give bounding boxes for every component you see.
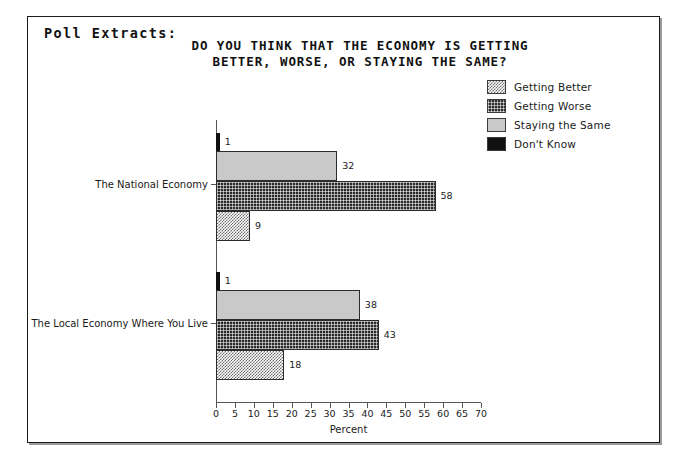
bar-dontknow[interactable]: [216, 133, 220, 151]
legend-label-dont-know: Don't Know: [514, 138, 576, 150]
chart-legend: Getting Better Getting Worse Staying the…: [487, 78, 611, 154]
x-axis-tick-label: 10: [248, 408, 260, 419]
x-axis-tick-label: 40: [361, 408, 373, 419]
bar-dontknow[interactable]: [216, 272, 220, 290]
x-axis-tick-label: 20: [286, 408, 298, 419]
legend-label-staying-the-same: Staying the Same: [514, 119, 611, 131]
bar-same[interactable]: [216, 151, 337, 181]
legend-item-dont-know[interactable]: Don't Know: [487, 135, 611, 153]
chart-title-line-1: DO YOU THINK THAT THE ECONOMY IS GETTING: [150, 38, 570, 54]
x-axis-tick-label: 70: [475, 408, 487, 419]
legend-label-getting-worse: Getting Worse: [514, 100, 591, 112]
bar-same[interactable]: [216, 290, 360, 320]
bar-value-label: 43: [384, 329, 396, 340]
legend-label-getting-better: Getting Better: [514, 81, 592, 93]
page-canvas: Poll Extracts: DO YOU THINK THAT THE ECO…: [0, 0, 688, 467]
bar-value-label: 9: [255, 220, 261, 231]
legend-swatch-staying-the-same: [487, 118, 506, 132]
x-axis-tick-label: 45: [380, 408, 392, 419]
bar-value-label: 1: [225, 136, 231, 147]
x-axis-tick-label: 15: [267, 408, 279, 419]
legend-swatch-getting-worse: [487, 99, 506, 113]
bar-better[interactable]: [216, 211, 250, 241]
x-axis-tick-label: 35: [342, 408, 354, 419]
x-axis-tick-label: 5: [232, 408, 238, 419]
bar-value-label: 38: [365, 299, 377, 310]
x-axis-tick-label: 50: [399, 408, 411, 419]
x-axis-tick-label: 25: [305, 408, 317, 419]
category-label: The Local Economy Where You Live: [0, 318, 208, 329]
bar-worse[interactable]: [216, 320, 379, 350]
category-tick: [211, 323, 216, 324]
legend-item-getting-better[interactable]: Getting Better: [487, 78, 611, 96]
bar-value-label: 1: [225, 275, 231, 286]
x-axis-tick-label: 60: [437, 408, 449, 419]
x-axis-tick-label: 55: [418, 408, 430, 419]
legend-item-getting-worse[interactable]: Getting Worse: [487, 97, 611, 115]
x-axis-tick-label: 65: [456, 408, 468, 419]
bar-worse[interactable]: [216, 181, 436, 211]
x-axis-tick-label: 30: [324, 408, 336, 419]
bar-value-label: 32: [342, 160, 354, 171]
legend-swatch-getting-better: [487, 80, 506, 94]
legend-swatch-dont-know: [487, 137, 506, 151]
bar-value-label: 18: [289, 359, 301, 370]
x-axis-tick-label: 0: [213, 408, 219, 419]
category-label: The National Economy: [0, 179, 208, 190]
chart-title: DO YOU THINK THAT THE ECONOMY IS GETTING…: [150, 38, 570, 70]
x-axis-title: Percent: [216, 424, 481, 435]
chart-title-line-2: BETTER, WORSE, OR STAYING THE SAME?: [150, 54, 570, 70]
legend-item-staying-the-same[interactable]: Staying the Same: [487, 116, 611, 134]
bar-value-label: 58: [441, 190, 453, 201]
category-tick: [211, 184, 216, 185]
bar-better[interactable]: [216, 350, 284, 380]
